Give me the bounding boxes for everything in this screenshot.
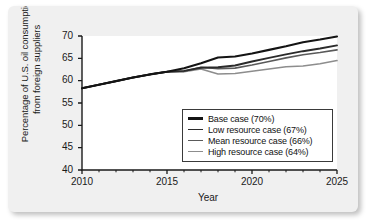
y-axis-title-line2: from foreign suppliers	[30, 6, 42, 154]
y-tick-label: 70	[49, 30, 73, 41]
x-axis-title: Year	[128, 192, 288, 203]
y-tick-label: 60	[49, 74, 73, 85]
y-tick-label: 45	[49, 141, 73, 152]
legend-line-swatch	[188, 129, 203, 131]
legend-line-swatch	[188, 151, 203, 153]
legend-line-swatch	[188, 140, 203, 142]
chart-legend: Base case (70%)Low resource case (67%)Me…	[182, 109, 333, 162]
y-tick-label: 40	[49, 164, 73, 175]
figure-panel: Percentage of U.S. oil consumption from …	[8, 6, 358, 212]
y-axis-title-line1: Percentage of U.S. oil consumption	[19, 6, 31, 154]
legend-label: Low resource case (67%)	[208, 125, 307, 135]
legend-label: Mean resource case (66%)	[208, 136, 312, 146]
y-axis-title: Percentage of U.S. oil consumption from …	[19, 6, 42, 154]
legend-label: Base case (70%)	[208, 114, 274, 124]
x-tick-label: 2010	[62, 176, 102, 187]
legend-item: High resource case (64%)	[188, 146, 327, 157]
x-tick-label: 2020	[232, 176, 272, 187]
legend-item: Base case (70%)	[188, 113, 327, 124]
y-tick-label: 50	[49, 119, 73, 130]
legend-label: High resource case (64%)	[208, 147, 308, 157]
y-tick-label: 55	[49, 97, 73, 108]
legend-line-swatch	[188, 117, 203, 119]
x-tick-label: 2015	[147, 176, 187, 187]
y-tick-label: 65	[49, 52, 73, 63]
legend-item: Mean resource case (66%)	[188, 135, 327, 146]
x-tick-label: 2025	[317, 176, 357, 187]
legend-item: Low resource case (67%)	[188, 124, 327, 135]
